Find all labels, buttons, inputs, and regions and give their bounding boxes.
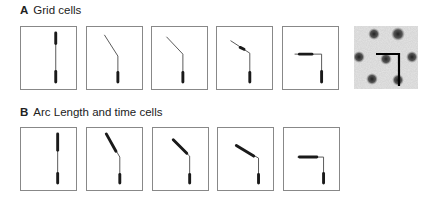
trajectory-path-icon [152,27,207,89]
trajectory-path-icon [87,128,142,190]
arc-time-cell-panel [20,127,77,191]
arc-time-cell-panel [86,127,143,191]
grid-cell-panel [216,26,273,90]
grid-cell-panel [20,26,77,90]
trajectory-path-icon [283,27,338,89]
trajectory-path-icon [21,27,76,89]
grid-cell-panel [282,26,339,90]
trajectory-path-icon [153,128,208,190]
grid-cell-firing-map [354,26,418,89]
trajectory-path-icon [284,128,339,190]
arc-time-cell-panel [283,127,340,191]
section-b-letter: B [20,106,28,118]
grid-cell-panel [86,26,143,90]
arc-time-cell-panel [217,127,274,191]
arc-time-cell-panel [152,127,209,191]
trajectory-path-icon [21,128,76,190]
section-b-title: Arc Length and time cells [33,106,162,118]
grid-cell-panel [151,26,208,90]
section-a-letter: A [20,4,28,16]
trajectory-path-icon [217,27,272,89]
section-b-label: BArc Length and time cells [20,106,162,118]
trajectory-path-icon [87,27,142,89]
section-a-label: AGrid cells [20,4,81,16]
heatmap-image [354,26,418,89]
trajectory-path-icon [218,128,273,190]
section-a-title: Grid cells [33,4,81,16]
